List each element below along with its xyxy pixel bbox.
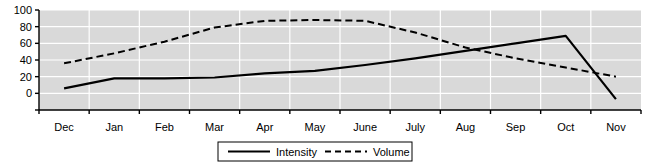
legend-label-intensity[interactable]: Intensity bbox=[276, 146, 317, 158]
y-tick-label: 60 bbox=[20, 37, 32, 49]
y-axis-ticks: 020406080100 bbox=[14, 4, 39, 110]
x-tick-label: June bbox=[353, 121, 377, 133]
line-chart: 020406080100DecJanFebMarAprMayJuneJulyAu… bbox=[0, 0, 665, 168]
y-tick-label: 20 bbox=[20, 71, 32, 83]
y-tick-label: 80 bbox=[20, 21, 32, 33]
x-tick-label: Jan bbox=[105, 121, 123, 133]
chart-legend: IntensityVolume bbox=[218, 142, 412, 161]
x-tick-label: Dec bbox=[54, 121, 74, 133]
legend-label-volume[interactable]: Volume bbox=[373, 146, 410, 158]
x-axis-ticks: DecJanFebMarAprMayJuneJulyAugSepOctNov bbox=[39, 110, 641, 133]
y-tick-label: 40 bbox=[20, 54, 32, 66]
x-tick-label: July bbox=[405, 121, 425, 133]
y-tick-label: 0 bbox=[26, 87, 32, 99]
y-tick-label: 100 bbox=[14, 4, 32, 16]
x-tick-label: Apr bbox=[256, 121, 273, 133]
x-tick-label: Mar bbox=[205, 121, 224, 133]
x-tick-label: Feb bbox=[155, 121, 174, 133]
x-tick-label: Aug bbox=[456, 121, 476, 133]
x-tick-label: Nov bbox=[606, 121, 626, 133]
chart-canvas: 020406080100DecJanFebMarAprMayJuneJulyAu… bbox=[0, 0, 665, 168]
x-tick-label: Oct bbox=[557, 121, 574, 133]
x-tick-label: Sep bbox=[506, 121, 526, 133]
x-tick-label: May bbox=[305, 121, 326, 133]
